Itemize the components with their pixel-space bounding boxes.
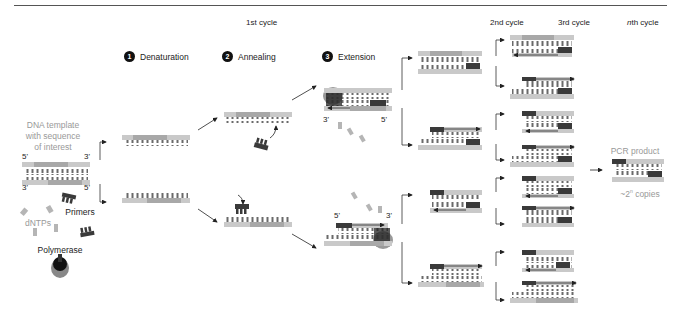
cycle2-product-3	[430, 190, 482, 213]
extension-top	[323, 87, 392, 142]
cycle2-product-1	[418, 51, 482, 74]
arrow	[198, 209, 217, 222]
denatured-top-strand	[122, 135, 190, 146]
denatured-bottom-strand	[122, 192, 190, 203]
annealing-top-strand	[224, 112, 292, 151]
annealing-bottom-strand	[224, 195, 292, 227]
cycle2-product-2	[418, 127, 482, 150]
pcr-product-icon	[612, 159, 664, 182]
split-arrow	[100, 184, 106, 202]
arrow	[292, 86, 316, 100]
primer-icon	[62, 193, 95, 238]
dntps-icon	[20, 205, 58, 236]
polymerase-icon	[51, 254, 69, 278]
split-arrow	[100, 142, 106, 160]
dna-template-icon	[22, 162, 90, 185]
extension-bottom	[324, 191, 393, 249]
cycle3-products	[510, 35, 578, 303]
arrow	[198, 118, 217, 130]
cycle2-product-4	[418, 264, 484, 287]
arrow	[292, 234, 316, 248]
pcr-diagram	[0, 0, 681, 318]
